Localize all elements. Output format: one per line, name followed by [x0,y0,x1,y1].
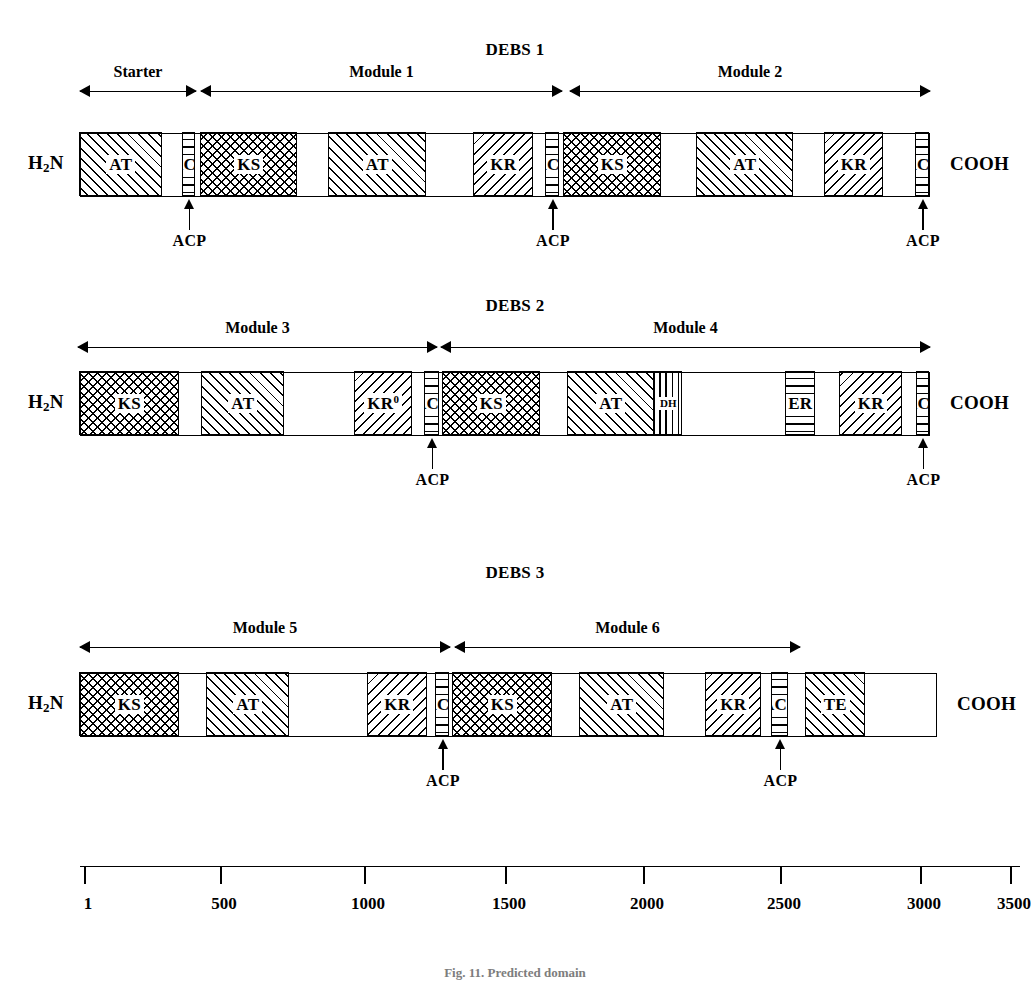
domain-label: ACP [182,155,195,174]
domain-box-at: AT [567,371,654,435]
figure-caption: Fig. 11. Predicted domain [0,965,1030,981]
domain-box-at: AT [579,672,664,736]
module-span-line [441,347,930,348]
c-terminus-label: COOH [950,392,1009,414]
domain-box-kr: KR [839,371,902,435]
domain-box-at: AT [696,132,793,196]
module-label: Module 6 [455,619,800,637]
protein-title: DEBS 1 [0,40,1030,60]
module-span-module-3: Module 3 [78,322,437,356]
acp-callout: ACP [772,739,789,799]
acp-callout-label: ACP [416,471,450,489]
module-span-starter: Starter [80,66,196,100]
module-span-line [570,91,930,92]
domain-label: KR [381,695,413,714]
acp-arrow-stem [442,748,444,770]
arrowhead-right-icon [920,341,931,353]
domain-box-kr: KR [473,132,533,196]
domain-label: KR [855,394,887,413]
acp-callout: ACP [546,199,560,259]
domain-box-kr: KR [824,132,883,196]
domain-box-acp: ACP [545,132,559,196]
protein-backbone: KSATKR0ACPKSATDHERKRACP [80,372,930,436]
scale-tick-label: 1 [84,894,93,914]
module-span-module-4: Module 4 [441,322,930,356]
domain-box-ks: KS [563,132,661,196]
c-terminus-label: COOH [957,693,1016,715]
scale-tick-label: 2500 [767,894,801,914]
arrowhead-right-icon [552,85,563,97]
arrowhead-left-icon [440,341,451,353]
acp-arrow-stem [922,208,924,230]
domain-label: KR [717,695,749,714]
n-terminus-label: H2N [28,152,64,176]
acp-callout-label: ACP [906,232,940,250]
acp-arrow-stem [923,447,925,469]
acp-arrow-stem [432,447,434,469]
n-terminus-label: H2N [28,391,64,415]
arrowhead-left-icon [79,641,90,653]
arrowhead-left-icon [454,641,465,653]
domain-box-acp: ACP [182,132,195,196]
domain-label: KR [487,155,519,174]
acp-callout: ACP [916,199,930,259]
module-span-module-2: Module 2 [570,66,930,100]
acp-callout-label: ACP [764,772,798,790]
scale-tick-label: 500 [211,894,237,914]
arrowhead-right-icon [920,85,931,97]
module-span-line [80,91,196,92]
acp-callout: ACP [436,739,450,799]
scale-tick [780,866,782,884]
domain-label: AT [607,695,636,714]
module-span-module-1: Module 1 [201,66,562,100]
module-label: Module 4 [441,319,930,337]
domain-label: ACP [545,155,559,174]
domain-label: AT [596,394,625,413]
domain-label: KR0 [364,393,402,413]
acp-arrow-stem [780,748,782,770]
domain-label: KS [488,695,517,714]
domain-label: ACP [771,695,788,714]
acp-callout-label: ACP [173,232,207,250]
domain-box-at: AT [201,371,284,435]
domain-label: ACP [916,394,929,413]
arrowhead-right-icon [186,85,197,97]
domain-label: ACP [435,695,449,714]
domain-label: DH [659,397,678,410]
acp-callout: ACP [425,438,440,498]
arrowhead-right-icon [440,641,451,653]
domain-label: AT [730,155,759,174]
acp-arrow-stem [189,208,191,230]
acp-callout: ACP [917,438,930,498]
acp-callout: ACP [183,199,196,259]
c-terminus-label: COOH [950,153,1009,175]
arrowhead-left-icon [569,85,580,97]
module-label: Starter [80,63,196,81]
domain-box-ks: KS [452,672,552,736]
domain-box-kr: KR [705,672,761,736]
arrowhead-right-icon [790,641,801,653]
module-span-module-5: Module 5 [80,622,450,656]
scale-tick-label: 3000 [907,894,941,914]
domain-box-te: TE [805,672,865,736]
domain-box-ks: KS [200,132,297,196]
arrowhead-left-icon [200,85,211,97]
domain-label: TE [821,695,850,714]
arrowhead-left-icon [77,341,88,353]
scale-tick-label: 1000 [351,894,385,914]
scale-tick [920,866,922,884]
n-terminus-label: H2N [28,692,64,716]
arrowhead-left-icon [79,85,90,97]
module-label: Module 2 [570,63,930,81]
scale-tick [220,866,222,884]
scale-tick [643,866,645,884]
domain-label: KS [115,695,144,714]
domain-box-dh: DH [654,371,682,435]
domain-box-acp: ACP [424,371,439,435]
module-label: Module 1 [201,63,562,81]
acp-callout-label: ACP [907,471,941,489]
domain-label: KS [598,155,627,174]
domain-label: AT [106,155,135,174]
module-label: Module 3 [78,319,437,337]
